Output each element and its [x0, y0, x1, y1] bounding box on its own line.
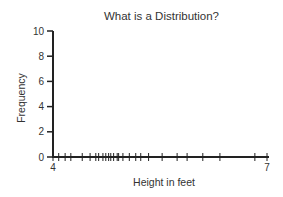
y-tick-label: 4 [38, 101, 44, 112]
x-tick-label: 4 [50, 162, 56, 173]
axes [52, 31, 269, 158]
y-tick-label: 8 [38, 51, 44, 62]
x-axis-ticks: 47 [50, 162, 270, 173]
y-tick-label: 2 [38, 126, 44, 137]
x-tick-label: 7 [264, 162, 270, 173]
y-tick-label: 0 [38, 152, 44, 163]
y-tick-label: 10 [33, 26, 45, 37]
y-axis-ticks: 0246810 [33, 26, 53, 163]
chart-plot-area: 0246810 47 [0, 0, 283, 197]
y-tick-label: 6 [38, 76, 44, 87]
